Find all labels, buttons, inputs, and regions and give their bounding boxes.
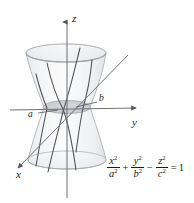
x-axis-label: x	[15, 168, 21, 180]
eq-rhs: 1	[179, 162, 184, 173]
z-axis-label: z	[71, 12, 77, 24]
semi-axis-b-label: b	[99, 93, 104, 103]
eq-operator-minus: −	[147, 162, 153, 173]
eq-b-exp: 2	[139, 166, 142, 173]
equation-term-y: y2 b2	[131, 155, 144, 178]
y-axis-label: y	[131, 116, 137, 128]
eq-x-exp: 2	[114, 154, 117, 161]
hyperboloid-figure: z y x a b x2 a2 + y2 b2 − z2 c2 = 1	[0, 0, 194, 203]
eq-a-exp: 2	[114, 166, 117, 173]
equation-term-x: x2 a2	[107, 155, 120, 178]
eq-c-exp: 2	[163, 166, 166, 173]
equation-term-z: z2 c2	[156, 155, 168, 178]
equation: x2 a2 + y2 b2 − z2 c2 = 1	[106, 150, 192, 184]
top-ellipse	[26, 44, 106, 62]
eq-z-exp: 2	[162, 154, 165, 161]
eq-equals: =	[171, 162, 177, 173]
eq-y-exp: 2	[138, 154, 141, 161]
semi-axis-a-label: a	[28, 109, 33, 119]
eq-operator-plus: +	[123, 162, 129, 173]
